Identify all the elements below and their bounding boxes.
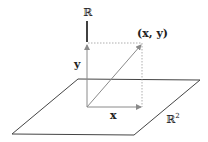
label-x: x bbox=[110, 110, 117, 121]
label-r-axis: ℝ bbox=[83, 7, 92, 18]
label-point: (x, y) bbox=[137, 28, 168, 39]
vector-arrow bbox=[87, 45, 141, 107]
label-y: y bbox=[74, 59, 80, 70]
label-plane-base: ℝ bbox=[166, 113, 175, 126]
label-plane: ℝ2 bbox=[166, 113, 180, 125]
label-plane-exp: 2 bbox=[175, 112, 179, 120]
